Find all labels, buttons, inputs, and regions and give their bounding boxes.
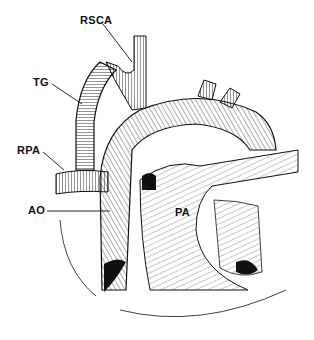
label-ao: AO (28, 204, 45, 216)
label-pa: PA (175, 206, 190, 218)
label-rpa: RPA (17, 144, 40, 156)
heart-illustration (0, 0, 314, 340)
label-tg: TG (33, 76, 49, 88)
label-rsca: RSCA (80, 14, 112, 26)
